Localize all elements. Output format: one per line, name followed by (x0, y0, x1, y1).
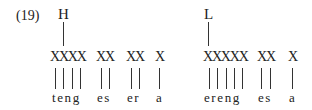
association-line (209, 68, 210, 89)
example-number: (19) (16, 9, 39, 23)
tone-high: H (58, 7, 69, 22)
association-line (55, 68, 56, 89)
association-line (242, 68, 243, 89)
association-line (261, 68, 262, 89)
association-line (234, 68, 235, 89)
association-line (63, 68, 64, 89)
association-line (131, 68, 132, 89)
segments-es-2: es (258, 91, 272, 104)
skeleton-a: X (155, 50, 164, 64)
skeleton-a-2: X (288, 50, 297, 64)
segments-ereng: ereng (204, 91, 241, 104)
association-line (270, 68, 271, 89)
association-line (109, 68, 110, 89)
association-line (101, 68, 102, 89)
skeleton-teng: XXXX (50, 50, 86, 64)
association-line (292, 68, 293, 89)
segments-teng: teng (52, 91, 81, 104)
association-line (63, 22, 64, 46)
association-line (217, 68, 218, 89)
segments-a: a (156, 91, 163, 104)
skeleton-ereng: XXXXX (203, 50, 248, 64)
segments-es: es (97, 91, 111, 104)
association-line (159, 68, 160, 89)
association-line (226, 68, 227, 89)
association-line (139, 68, 140, 89)
association-line (80, 68, 81, 89)
tone-low: L (204, 7, 213, 22)
skeleton-es-2: XX (257, 50, 275, 64)
skeleton-er: XX (126, 50, 144, 64)
skeleton-es: XX (96, 50, 114, 64)
segments-er: er (127, 91, 140, 104)
association-line (72, 68, 73, 89)
association-line (208, 22, 209, 46)
segments-a-2: a (289, 91, 296, 104)
